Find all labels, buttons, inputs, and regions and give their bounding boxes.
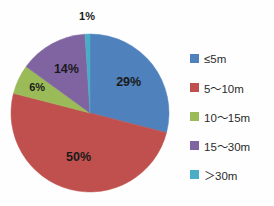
legend-item-label: 15～30m: [204, 138, 250, 154]
legend-item-label: ＞30m: [204, 167, 237, 183]
legend-swatch-icon: [190, 170, 199, 179]
legend-item[interactable]: 10～15m: [190, 102, 274, 131]
pie-data-label: 6%: [29, 81, 45, 93]
pie-data-label: 50%: [66, 150, 91, 164]
pie-chart-area: 29%50%6%14%1%: [0, 0, 180, 206]
legend-swatch-icon: [190, 112, 199, 121]
legend-swatch-icon: [190, 54, 199, 63]
legend-item-label: 10～15m: [204, 109, 250, 125]
legend-item[interactable]: ≤5m: [190, 44, 274, 73]
pie-chart-svg: 29%50%6%14%1%: [0, 0, 180, 206]
legend-swatch-icon: [190, 141, 199, 150]
pie-slice-group: [11, 34, 169, 192]
legend-item[interactable]: 5～10m: [190, 73, 274, 102]
legend-item[interactable]: ＞30m: [190, 160, 274, 189]
pie-data-label: 14%: [54, 62, 79, 76]
pie-data-label: 1%: [79, 10, 95, 22]
chart-legend: ≤5m5～10m10～15m15～30m＞30m: [190, 44, 274, 189]
legend-item[interactable]: 15～30m: [190, 131, 274, 160]
legend-item-label: 5～10m: [204, 80, 244, 96]
pie-data-label: 29%: [116, 75, 141, 89]
legend-item-label: ≤5m: [204, 53, 226, 65]
legend-swatch-icon: [190, 83, 199, 92]
